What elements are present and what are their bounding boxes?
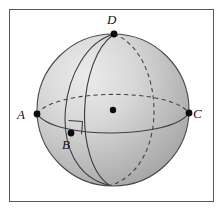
point-C-dot [186,110,193,117]
sphere-diagram [0,0,224,212]
point-label-A: A [17,108,25,121]
point-A-dot [34,111,41,118]
point-D-dot [111,31,118,38]
point-label-D: D [107,13,116,26]
point-B-dot [68,130,75,137]
figure-root: A B C D [0,0,224,212]
point-label-B: B [62,138,70,151]
point-O-dot [110,107,116,113]
point-label-C: C [193,107,202,120]
